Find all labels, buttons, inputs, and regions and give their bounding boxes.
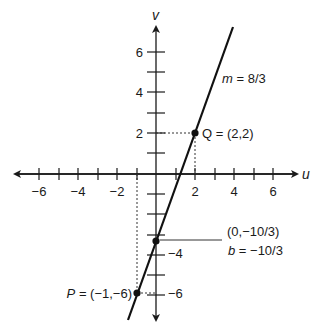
v-tick-label: 6: [136, 45, 143, 60]
v-tick-label: 2: [136, 126, 143, 141]
slope-label: m = 8/3: [222, 71, 266, 86]
point-q: [191, 129, 198, 136]
u-tick-label: −4: [71, 184, 86, 199]
q-label: Q = (2,2): [202, 126, 254, 141]
b-value: = −10/3: [235, 243, 283, 258]
intercept-b-label: b = −10/3: [228, 243, 283, 258]
u-tick-label: 4: [230, 184, 237, 199]
v-axis: 6 4 2 −4 −6 v: [136, 7, 183, 320]
b-var: b: [228, 243, 235, 258]
u-tick-label: 6: [269, 184, 276, 199]
p-label: P = (−1,−6): [67, 286, 132, 301]
graph-canvas: −6 −4 −2 2 4 6 u: [0, 0, 321, 330]
u-tick-label: 2: [191, 184, 198, 199]
slope-var: m: [222, 71, 233, 86]
u-axis-name: u: [302, 166, 310, 182]
intercept-coord-label: (0,−10/3): [227, 224, 279, 239]
slope-value: = 8/3: [233, 71, 266, 86]
p-coords: = (−1,−6): [75, 286, 132, 301]
v-tick-label: −6: [168, 286, 183, 301]
point-intercept: [152, 237, 159, 244]
q-name: Q: [202, 126, 212, 141]
v-tick-label: 4: [136, 85, 143, 100]
q-coords: = (2,2): [212, 126, 254, 141]
u-tick-label: −6: [32, 184, 47, 199]
coordinate-plane-diagram: −6 −4 −2 2 4 6 u: [0, 0, 321, 330]
point-p: [133, 289, 140, 296]
v-axis-name: v: [152, 7, 160, 23]
v-tick-label: −4: [168, 246, 183, 261]
p-name: P: [67, 286, 76, 301]
u-tick-label: −2: [110, 184, 125, 199]
